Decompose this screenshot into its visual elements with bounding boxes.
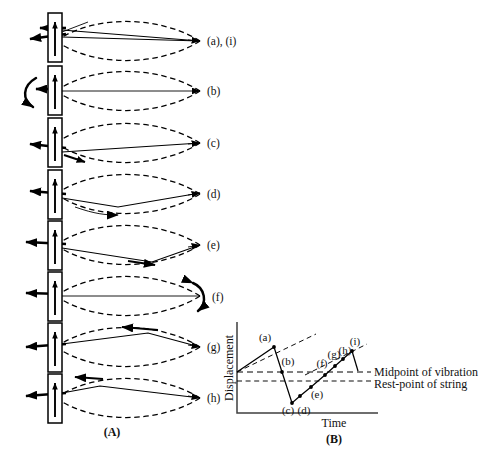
plectrum-c [48,118,62,167]
row-label-c: (c) [207,137,220,150]
row-label-b: (b) [207,85,221,98]
string-lower-segment [62,143,200,152]
point-i-tick [352,351,358,371]
envelope-upper [56,71,200,91]
slip-off-curved-arrow [25,78,36,107]
point-label-f: (f) [317,357,328,370]
string-kink-path [62,333,200,347]
data-point-g [333,364,337,368]
figure-container: (a), (i) (b) [0,0,485,449]
point-label-c: (c) [282,404,295,417]
data-point-d [298,394,302,398]
plectrum-a [48,13,62,62]
envelope-upper [56,276,200,296]
data-point-b [280,370,284,374]
plectrum-d [48,170,62,219]
plectrum-g [48,323,62,372]
motion-arrow-left-above [75,377,103,379]
motion-arrow-right-below [75,207,118,215]
envelope-lower [56,41,200,61]
envelope-upper [56,327,200,347]
x-axis-label: Time [322,416,347,430]
motion-arrow-left-above [122,327,158,330]
row-label-d: (d) [207,188,221,201]
panel-b-caption: (B) [326,432,342,446]
envelope-lower [56,347,200,367]
panel-a-row-b: (b) [25,66,220,115]
legend-restpoint-label: Rest-point of string [374,377,467,391]
envelope-lower [56,296,200,316]
string-kink-path [62,193,200,207]
point-label-b: (b) [282,355,295,368]
panel-a-row-h: (h) [26,374,221,423]
data-point-f [323,373,327,377]
figure-canvas: (a), (i) (b) [0,0,485,449]
point-label-a: (a) [259,331,272,344]
panel-a-row-c: (c) [30,118,220,167]
row-label-g: (g) [207,341,221,354]
plectrum-f [48,272,62,321]
plectrum-b [48,66,62,115]
point-label-i: (i) [350,335,361,348]
point-label-e: (e) [311,388,324,401]
panel-b-graph: (a) (b) (c) (d) (e) (f) (g) (h) (i) Disp… [222,322,478,446]
panel-a-row-e: (e) [26,221,220,270]
envelope-lower [56,398,200,418]
panel-a-row-f: (f) [26,272,224,321]
point-label-d: (d) [298,404,311,417]
plectrum-h [48,374,62,423]
row-label-a-i: (a), (i) [207,35,237,48]
envelope-upper [56,123,200,143]
envelope-lower [56,91,200,111]
envelope-upper [56,174,200,194]
panel-a-row-d: (d) [30,170,221,219]
plectrum-e [48,221,62,270]
panel-a-row-a-i: (a), (i) [30,13,237,62]
envelope-upper [56,225,200,245]
y-axis-label: Displacement [222,334,236,401]
data-point-a [272,345,276,349]
panel-a-caption: (A) [104,425,121,439]
row-label-e: (e) [207,239,220,252]
data-point-h [341,357,345,361]
panel-a-row-g: (g) [26,323,221,372]
row-label-h: (h) [207,392,221,405]
row-label-f: (f) [212,291,224,304]
string-kink-path [62,245,200,262]
